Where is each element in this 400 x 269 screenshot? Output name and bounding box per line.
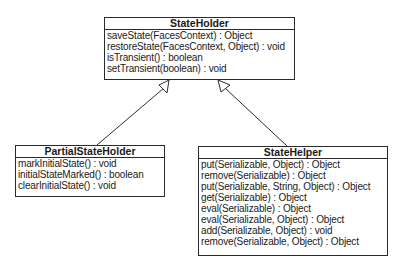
method-list: put(Serializable, Object) : Object remov… bbox=[199, 159, 387, 247]
class-stateholder: StateHolder saveState(FacesContext) : Ob… bbox=[104, 17, 295, 80]
method: saveState(FacesContext) : Object bbox=[107, 30, 292, 41]
generalization-line-statehelper bbox=[225, 88, 287, 146]
generalization-line-partialstateholder bbox=[97, 88, 164, 145]
method: put(Serializable, Object) : Object bbox=[201, 159, 385, 170]
method-list: saveState(FacesContext) : Object restore… bbox=[105, 30, 294, 74]
method: setTransient(boolean) : void bbox=[107, 63, 292, 74]
method: add(Serializable, Object) : void bbox=[201, 225, 385, 236]
method: initialStateMarked() : boolean bbox=[18, 169, 162, 180]
class-name: StateHolder bbox=[105, 18, 294, 30]
method: remove(Serializable) : Object bbox=[201, 170, 385, 181]
method: eval(Serializable) : Object bbox=[201, 203, 385, 214]
method: remove(Serializable, Object) : Object bbox=[201, 236, 385, 247]
method: restoreState(FacesContext, Object) : voi… bbox=[107, 41, 292, 52]
method-list: markInitialState() : void initialStateMa… bbox=[16, 158, 164, 191]
class-statehelper: StateHelper put(Serializable, Object) : … bbox=[198, 146, 388, 256]
hollow-triangle-arrow-icon bbox=[218, 80, 230, 92]
class-partialstateholder: PartialStateHolder markInitialState() : … bbox=[15, 145, 165, 197]
method: put(Serializable, String, Object) : Obje… bbox=[201, 181, 385, 192]
method: markInitialState() : void bbox=[18, 158, 162, 169]
method: get(Serializable) : Object bbox=[201, 192, 385, 203]
class-name: PartialStateHolder bbox=[16, 146, 164, 158]
method: clearInitialState() : void bbox=[18, 180, 162, 191]
class-name: StateHelper bbox=[199, 147, 387, 159]
method: eval(Serializable, Object) : Object bbox=[201, 214, 385, 225]
method: isTransient() : boolean bbox=[107, 52, 292, 63]
